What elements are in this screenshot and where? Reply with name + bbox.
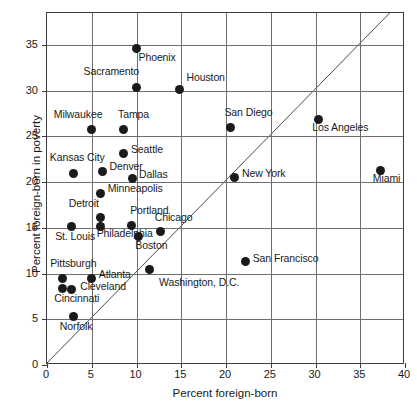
data-point-label: St. Louis	[55, 231, 95, 242]
x-tick-label: 15	[174, 368, 186, 380]
data-point	[69, 169, 78, 178]
y-axis-tick	[42, 319, 47, 320]
data-point-label: Sacramento	[84, 66, 140, 77]
y-axis-tick	[42, 136, 47, 137]
gridline-vertical	[226, 13, 227, 363]
y-axis-tick	[42, 91, 47, 92]
data-point	[98, 167, 107, 176]
data-point-label: Miami	[373, 173, 401, 184]
data-point-label: Minneapolis	[108, 183, 163, 194]
data-point	[132, 83, 141, 92]
data-point-label: Detroit	[69, 198, 99, 209]
data-point-label: Tampa	[118, 109, 149, 120]
y-axis-tick	[42, 274, 47, 275]
data-point-label: Norfolk	[60, 321, 93, 332]
data-point	[67, 285, 76, 294]
x-tick-label: 40	[398, 368, 410, 380]
y-axis-tick	[42, 228, 47, 229]
x-tick-label: 10	[129, 368, 141, 380]
gridline-vertical	[181, 13, 182, 363]
scatter-chart: PhoenixSacramentoHoustonMilwaukeeTampaLo…	[0, 0, 417, 411]
y-axis-tick	[42, 365, 47, 366]
data-point-label: Kansas City	[50, 152, 105, 163]
data-point-label: San Diego	[224, 107, 272, 118]
data-point-label: Seattle	[131, 144, 163, 155]
data-point-label: Pittsburgh	[50, 258, 96, 269]
data-point-label: Cleveland	[80, 281, 126, 292]
data-point-label: Dallas	[139, 169, 168, 180]
data-point	[58, 274, 67, 283]
data-point	[145, 265, 154, 274]
data-point	[226, 123, 235, 132]
y-axis-tick	[42, 182, 47, 183]
data-point-label: Philadelphia	[97, 228, 153, 239]
x-tick-label: 30	[308, 368, 320, 380]
data-point-label: San Francisco	[253, 253, 319, 264]
x-tick-label: 35	[353, 368, 365, 380]
x-tick-label: 0	[43, 368, 49, 380]
y-axis-label: Percent foreign-born in poverty	[30, 84, 42, 304]
x-tick-label: 5	[88, 368, 94, 380]
gridline-horizontal	[47, 136, 403, 137]
plot-area: PhoenixSacramentoHoustonMilwaukeeTampaLo…	[46, 12, 404, 364]
y-tick-label: 5	[10, 312, 38, 324]
data-point-label: Washington, D.C.	[159, 277, 239, 288]
data-point	[119, 125, 128, 134]
data-point-label: Houston	[186, 72, 224, 83]
x-tick-label: 20	[219, 368, 231, 380]
gridline-horizontal	[47, 91, 403, 92]
data-point-label: Atlanta	[99, 269, 131, 280]
data-point-label: Los Angeles	[312, 122, 368, 133]
y-tick-label: 35	[10, 38, 38, 50]
gridline-vertical	[271, 13, 272, 363]
gridline-horizontal	[47, 45, 403, 46]
y-tick-label: 0	[10, 358, 38, 370]
gridline-horizontal	[47, 182, 403, 183]
data-point-label: Cincinnati	[54, 293, 99, 304]
data-point-label: Boston	[135, 240, 167, 251]
data-point-label: Phoenix	[139, 52, 176, 63]
y-axis-tick	[42, 45, 47, 46]
data-point-label: Denver	[109, 161, 142, 172]
data-point-label: Chicago	[155, 212, 193, 223]
gridline-vertical	[360, 13, 361, 363]
x-tick-label: 25	[264, 368, 276, 380]
x-axis-label: Percent foreign-born	[46, 387, 404, 399]
data-point-label: Milwaukee	[54, 109, 103, 120]
data-point	[87, 125, 96, 134]
data-point-label: New York	[242, 168, 286, 179]
gridline-vertical	[316, 13, 317, 363]
gridline-horizontal	[47, 319, 403, 320]
